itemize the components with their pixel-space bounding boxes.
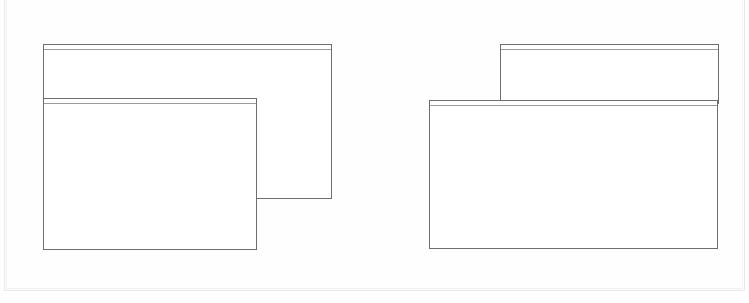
right-group-front-window[interactable]	[429, 100, 718, 249]
figure-canvas	[0, 0, 749, 303]
left-group-front-window-body	[44, 104, 256, 249]
right-group-front-window-body	[430, 106, 717, 248]
right-group-back-window-body	[501, 50, 718, 103]
left-group-front-window[interactable]	[43, 98, 257, 250]
right-group-back-window[interactable]	[500, 44, 719, 104]
